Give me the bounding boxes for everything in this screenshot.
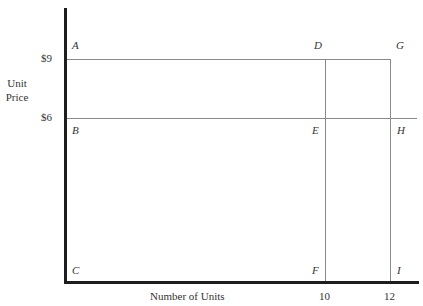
- point-label-i: I: [397, 264, 401, 276]
- point-label-e: E: [312, 124, 319, 136]
- x-tick-10: 10: [319, 290, 330, 302]
- y-axis-label: Unit Price: [2, 76, 32, 104]
- x-axis: [64, 281, 419, 284]
- quantity-12-line: [390, 59, 391, 281]
- price-6-line: [67, 118, 417, 119]
- quantity-10-line: [325, 59, 326, 281]
- x-tick-12: 12: [384, 290, 395, 302]
- point-label-a: A: [72, 39, 79, 51]
- point-label-h: H: [397, 124, 405, 136]
- x-axis-label: Number of Units: [150, 290, 225, 302]
- y-tick-6: $6: [41, 111, 52, 123]
- y-axis: [64, 8, 67, 284]
- price-9-line: [67, 59, 390, 60]
- y-tick-9: $9: [41, 52, 52, 64]
- y-axis-label-line1: Unit: [2, 76, 32, 90]
- point-label-f: F: [312, 264, 319, 276]
- point-label-g: G: [396, 39, 404, 51]
- point-label-b: B: [72, 124, 79, 136]
- point-label-d: D: [314, 39, 322, 51]
- y-axis-label-line2: Price: [2, 90, 32, 104]
- point-label-c: C: [72, 264, 79, 276]
